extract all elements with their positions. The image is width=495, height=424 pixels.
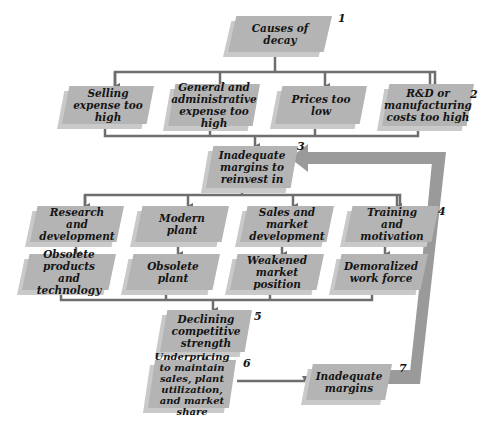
flowchart-canvas: Causes of decay 1 Selling expense too hi… <box>0 0 495 424</box>
node-sales-market-development: Sales and market development <box>240 206 334 242</box>
node-general-admin-expense: General and administrative expense too h… <box>168 84 260 126</box>
node-number: 2 <box>470 88 478 101</box>
node-causes-of-decay: Causes of decay <box>228 16 332 52</box>
node-prices-too-low: Prices too low <box>275 86 367 124</box>
node-obsolete-plant: Obsolete plant <box>126 254 220 290</box>
node-obsolete-products: Obsolete products and technology <box>22 254 116 290</box>
node-research-development: Research and development <box>30 206 124 242</box>
node-modern-plant: Modern plant <box>135 206 229 242</box>
node-number: 3 <box>297 140 305 153</box>
node-number: 7 <box>399 362 407 375</box>
node-training-motivation: Training and motivation <box>345 206 439 242</box>
node-selling-expense: Selling expense too high <box>62 86 154 124</box>
node-underpricing: Underpricing to maintain sales, plant ut… <box>148 360 236 408</box>
node-demoralized-work-force: Demoralized work force <box>334 254 428 290</box>
node-weakened-market-position: Weakened market position <box>230 254 324 290</box>
node-number: 1 <box>338 12 346 25</box>
node-declining-competitive-strength: Declining competitive strength <box>160 310 252 352</box>
node-inadequate-margins-reinvest: Inadequate margins to reinvest in <box>206 146 298 188</box>
node-number: 6 <box>243 357 251 370</box>
node-number: 5 <box>254 310 262 323</box>
node-number: 4 <box>438 205 446 218</box>
node-inadequate-margins: Inadequate margins <box>306 364 392 400</box>
node-rd-manufacturing-costs: R&D or manufacturing costs too high <box>382 84 474 126</box>
